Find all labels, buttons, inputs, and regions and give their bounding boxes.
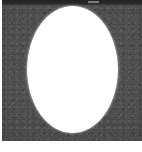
- figure-caption: [2, 143, 140, 152]
- top-dark-band: [2, 0, 142, 5]
- top-band-marker: [88, 1, 99, 3]
- figure-image[interactable]: [2, 0, 142, 141]
- figure-thumbnail: [0, 0, 142, 152]
- ellipse-shape: [27, 6, 118, 133]
